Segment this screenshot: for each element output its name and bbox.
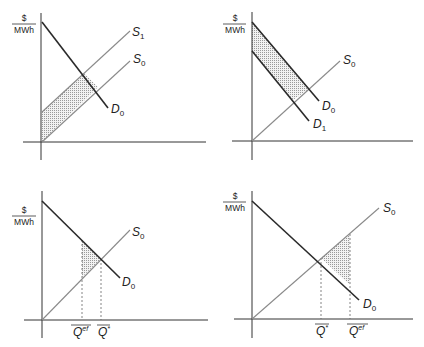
unit-denominator: MWh [14, 217, 34, 227]
label-qstar: Q* [315, 324, 329, 338]
label-s0: S0 [383, 201, 396, 217]
unit-denominator: MWh [225, 203, 245, 213]
panel-bottom-right: $ MWh S0 D0 Q* Qef [223, 191, 413, 338]
label-s1: S1 [132, 25, 145, 41]
label-qef: Qef [347, 324, 368, 338]
svg-text:Q*: Q* [98, 325, 110, 339]
svg-text:Qef: Qef [349, 324, 365, 338]
shaded-area [82, 240, 101, 277]
panel-bottom-left: $ MWh S0 D0 Qef Q* [12, 191, 208, 339]
label-qstar: Q* [97, 325, 110, 339]
unit-numerator: $ [22, 13, 27, 23]
axis-unit-label: $ MWh [12, 13, 36, 35]
label-d0: D0 [322, 99, 336, 115]
label-qef: Qef [71, 325, 91, 339]
svg-text:Q*: Q* [316, 324, 328, 338]
svg-text:Qef: Qef [73, 325, 89, 339]
label-d1: D1 [313, 117, 327, 133]
axis-unit-label: $ MWh [12, 205, 36, 227]
unit-denominator: MWh [225, 25, 245, 35]
demand-curve-d0 [42, 201, 120, 278]
supply-curve-s0 [252, 208, 379, 319]
unit-numerator: $ [233, 13, 238, 23]
unit-numerator: $ [233, 191, 238, 201]
label-s0: S0 [133, 52, 146, 68]
panel-top-right: $ MWh S0 D0 D1 [223, 12, 413, 160]
panel-top-left: $ MWh S1 S0 D0 [12, 13, 206, 160]
axis-unit-label: $ MWh [223, 13, 246, 35]
supply-curve-s1 [42, 31, 130, 112]
label-d0: D0 [122, 275, 136, 291]
unit-numerator: $ [22, 205, 27, 215]
axis-unit-label: $ MWh [223, 191, 246, 213]
label-d0: D0 [111, 102, 125, 118]
unit-denominator: MWh [14, 25, 34, 35]
figure: $ MWh S1 S0 D0 $ MWh S0 D0 D1 $ [0, 0, 424, 347]
label-d0: D0 [363, 297, 377, 313]
label-s0: S0 [343, 53, 356, 69]
label-s0: S0 [132, 225, 145, 241]
